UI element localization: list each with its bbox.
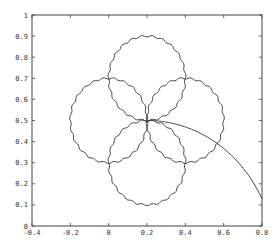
x-axis: -0.4-0.200.20.40.60.8 — [24, 15, 269, 237]
y-tick-label: 0.2 — [15, 180, 28, 188]
y-tick-label: 0.8 — [15, 54, 28, 62]
x-tick-label: 0 — [107, 229, 111, 237]
x-tick-label: -0.2 — [62, 229, 79, 237]
x-tick-label: 0.8 — [256, 229, 269, 237]
y-tick-label: 1 — [24, 12, 28, 20]
chart: -0.4-0.200.20.40.60.8 00.10.20.30.40.50.… — [0, 0, 277, 245]
y-tick-label: 0.1 — [15, 201, 28, 209]
y-tick-label: 0.4 — [15, 138, 28, 146]
x-tick-label: 0.6 — [217, 229, 230, 237]
plot-marks — [70, 36, 262, 206]
circle-bottom — [108, 120, 186, 206]
circle-left — [70, 78, 148, 164]
y-axis: 00.10.20.30.40.50.60.70.80.91 — [15, 12, 262, 231]
trajectory-arc — [147, 121, 262, 200]
y-tick-label: 0.7 — [15, 75, 28, 83]
y-tick-label: 0.3 — [15, 159, 28, 167]
y-tick-label: 0.6 — [15, 96, 28, 104]
x-tick-label: 0.4 — [179, 229, 192, 237]
x-tick-label: 0.2 — [141, 229, 154, 237]
y-tick-label: 0.5 — [15, 117, 28, 125]
circle-top — [108, 36, 186, 122]
y-tick-label: 0 — [24, 223, 28, 231]
y-tick-label: 0.9 — [15, 33, 28, 41]
